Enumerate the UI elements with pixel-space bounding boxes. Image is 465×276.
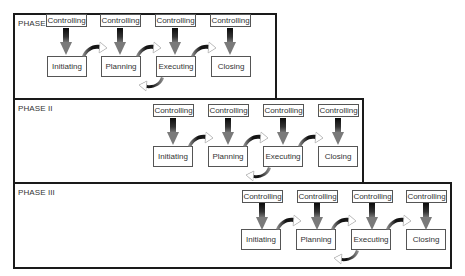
phase-1-closing: Closing	[211, 56, 251, 77]
phase-3-label: PHASE III	[18, 188, 55, 197]
phase-1-initiating: Initiating	[47, 56, 87, 77]
phase-3-executing: Executing	[351, 229, 391, 250]
phase-1-controlling-4: Controlling	[210, 14, 251, 27]
phase-3-controlling-3: Controlling	[352, 190, 393, 203]
phase-2-controlling-2: Controlling	[208, 104, 249, 117]
phase-3-planning: Planning	[296, 229, 336, 250]
phase-3-closing: Closing	[406, 229, 446, 250]
phase-3-controlling-1: Controlling	[242, 190, 283, 203]
phase-2-planning: Planning	[208, 146, 248, 167]
phase-2-label: PHASE II	[18, 104, 53, 113]
phase-1-controlling-1: Controlling	[46, 14, 87, 27]
phase-1-planning: Planning	[101, 56, 141, 77]
phase-2-closing: Closing	[318, 146, 358, 167]
phase-1-controlling-2: Controlling	[100, 14, 141, 27]
phase-2-initiating: Initiating	[153, 146, 193, 167]
phase-3-controlling-4: Controlling	[406, 190, 447, 203]
phase-2-executing: Executing	[263, 146, 303, 167]
phase-2-controlling-3: Controlling	[263, 104, 304, 117]
phase-3-initiating: Initiating	[241, 229, 281, 250]
phase-1-executing: Executing	[156, 56, 196, 77]
phase-2-controlling-1: Controlling	[153, 104, 194, 117]
phase-1-controlling-3: Controlling	[155, 14, 196, 27]
phase-3-controlling-2: Controlling	[297, 190, 338, 203]
phase-2-controlling-4: Controlling	[318, 104, 359, 117]
